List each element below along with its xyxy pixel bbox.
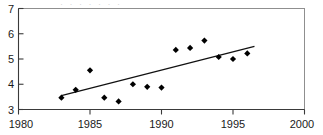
x-tick-label-1980: 1980 bbox=[9, 118, 33, 130]
data-point-group bbox=[58, 37, 250, 104]
y-tick-label-6: 6 bbox=[8, 28, 14, 40]
data-point bbox=[173, 47, 179, 53]
data-point bbox=[230, 56, 236, 62]
data-point bbox=[87, 67, 93, 73]
y-tick-label-4: 4 bbox=[8, 78, 14, 90]
x-tick-label-1990: 1990 bbox=[149, 118, 173, 130]
x-tick-label-2000: 2000 bbox=[290, 118, 314, 130]
data-point bbox=[101, 95, 107, 101]
x-tick-label-1985: 1985 bbox=[78, 118, 102, 130]
data-point bbox=[158, 84, 164, 90]
y-tick-label-5: 5 bbox=[8, 53, 14, 65]
x-tick-label-1995: 1995 bbox=[221, 118, 245, 130]
data-point bbox=[244, 50, 250, 56]
x-axis-ticks bbox=[19, 110, 305, 115]
y-axis-ticks bbox=[19, 9, 24, 110]
data-point bbox=[144, 84, 150, 90]
scatter-plot: 7 6 5 4 3 1980 1985 1990 1995 2000 bbox=[0, 0, 323, 135]
y-tick-label-3: 3 bbox=[8, 104, 14, 116]
data-point bbox=[201, 37, 207, 43]
data-point bbox=[130, 81, 136, 87]
data-point bbox=[187, 45, 193, 51]
data-point bbox=[116, 98, 122, 104]
plot-frame bbox=[19, 9, 305, 110]
y-tick-label-7: 7 bbox=[8, 3, 14, 15]
chart-container: · · · · · · · 7 6 5 4 3 bbox=[0, 0, 323, 135]
